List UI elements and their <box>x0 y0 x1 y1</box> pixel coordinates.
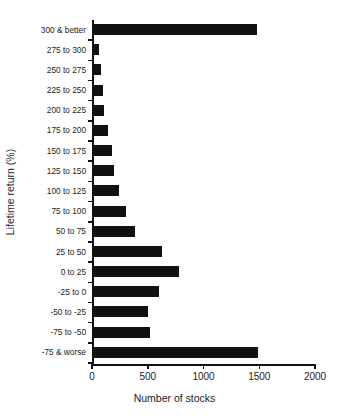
bar <box>92 24 257 35</box>
bar-row <box>92 20 315 39</box>
bar <box>92 125 108 136</box>
x-axis-tick-label: 1500 <box>248 371 270 382</box>
x-axis-tick-label: 500 <box>139 371 156 382</box>
bar-row <box>92 242 315 261</box>
bar <box>92 306 148 317</box>
x-axis-tick-label: 1000 <box>192 371 214 382</box>
y-axis-category-label: -50 to -25 <box>0 308 86 316</box>
bar-row <box>92 60 315 79</box>
bar-row <box>92 222 315 241</box>
bar <box>92 85 103 96</box>
y-axis-category-label: -75 & worse <box>0 348 86 356</box>
bar-chart: 300 & better275 to 300250 to 275225 to 2… <box>0 0 349 418</box>
plot-area <box>92 20 315 363</box>
y-axis-category-label: 275 to 300 <box>0 46 86 54</box>
bar <box>92 206 126 217</box>
bar <box>92 105 104 116</box>
bar-row <box>92 202 315 221</box>
bar-row <box>92 343 315 362</box>
y-axis-category-label: 250 to 275 <box>0 66 86 74</box>
bar <box>92 165 114 176</box>
bar-row <box>92 141 315 160</box>
x-tick-mark <box>147 364 149 369</box>
bar-row <box>92 282 315 301</box>
bar-row <box>92 81 315 100</box>
bar-row <box>92 181 315 200</box>
bar <box>92 347 258 358</box>
bar <box>92 226 135 237</box>
y-axis-category-label: 300 & better <box>0 26 86 34</box>
bar-row <box>92 323 315 342</box>
bar <box>92 286 159 297</box>
bar-row <box>92 121 315 140</box>
bar-row <box>92 161 315 180</box>
bar <box>92 327 150 338</box>
y-axis-category-label: -25 to 0 <box>0 288 86 296</box>
x-tick-mark <box>259 364 261 369</box>
bar <box>92 246 162 257</box>
x-tick-mark <box>203 364 205 369</box>
bar <box>92 64 101 75</box>
bar-row <box>92 101 315 120</box>
bar <box>92 44 99 55</box>
y-axis-title: Lifetime return (%) <box>4 112 16 272</box>
bar-row <box>92 302 315 321</box>
y-axis-category-label: 225 to 250 <box>0 86 86 94</box>
bar <box>92 185 119 196</box>
bar <box>92 145 112 156</box>
x-tick-mark <box>314 364 316 369</box>
x-axis-tick-label: 0 <box>89 371 95 382</box>
x-axis-tick-label: 2000 <box>304 371 326 382</box>
bar-row <box>92 40 315 59</box>
y-axis-category-label: -75 to -50 <box>0 328 86 336</box>
x-tick-mark <box>91 364 93 369</box>
x-axis-title: Number of stocks <box>0 392 349 404</box>
bar <box>92 266 179 277</box>
bar-row <box>92 262 315 281</box>
